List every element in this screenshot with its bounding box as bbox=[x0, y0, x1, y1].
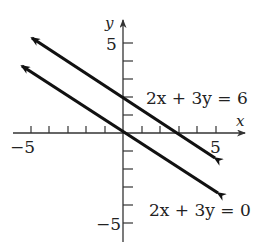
y-tick-label-5: 5 bbox=[106, 34, 117, 54]
line-2x-3y-0 bbox=[22, 66, 218, 193]
x-axis-label: x bbox=[236, 112, 245, 130]
y-tick-label-neg5: −5 bbox=[96, 214, 121, 234]
graph-figure: y x 5 −5 −5 5 2x + 3y = 6 2x + 3y = 0 bbox=[0, 0, 253, 242]
line2-label: 2x + 3y = 0 bbox=[149, 200, 251, 220]
x-tick-label-5: 5 bbox=[210, 137, 221, 157]
line1-label: 2x + 3y = 6 bbox=[146, 88, 248, 108]
x-tick-label-neg5: −5 bbox=[10, 137, 35, 157]
y-axis-label: y bbox=[104, 14, 114, 32]
